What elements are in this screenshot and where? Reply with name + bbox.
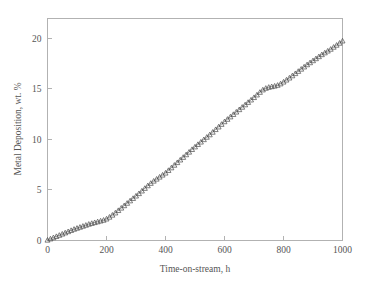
y-tick-label: 15 — [32, 84, 42, 94]
x-tick-label: 1000 — [333, 245, 352, 255]
x-tick-label: 200 — [99, 245, 114, 255]
figure-background — [0, 0, 372, 284]
y-tick-label: 5 — [37, 185, 42, 195]
x-tick-label: 0 — [45, 245, 50, 255]
y-tick-label: 0 — [37, 236, 42, 246]
x-axis-title: Time-on-stream, h — [160, 264, 231, 274]
y-tick-label: 20 — [32, 34, 42, 44]
x-tick-label: 800 — [276, 245, 291, 255]
y-axis-title: Metal Deposition, wt. % — [13, 82, 23, 175]
chart-figure: 02004006008001000 05101520 Time-on-strea… — [0, 0, 372, 284]
y-tick-label: 10 — [32, 135, 42, 145]
x-tick-label: 600 — [217, 245, 232, 255]
metal-deposition-plot: 02004006008001000 05101520 Time-on-strea… — [0, 0, 372, 284]
x-tick-label: 400 — [158, 245, 173, 255]
